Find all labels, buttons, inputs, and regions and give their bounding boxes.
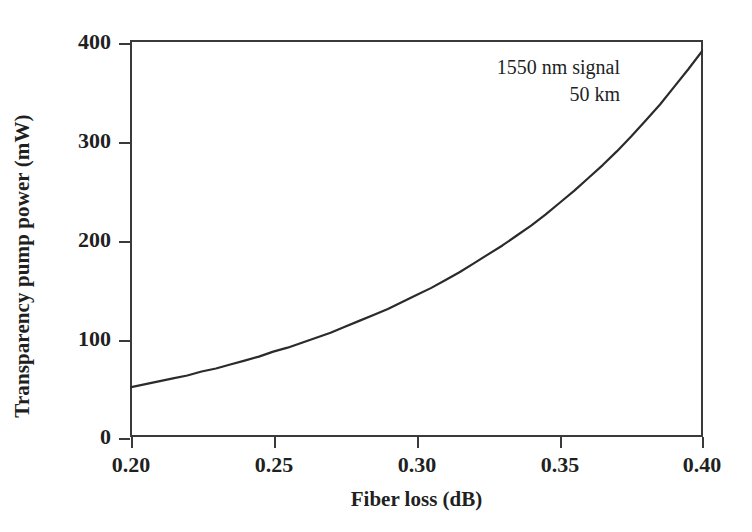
x-tick-label-0-40: 0.40 bbox=[652, 452, 752, 478]
x-tick-mark-0-20 bbox=[131, 437, 133, 448]
y-tick-mark-0 bbox=[119, 438, 130, 440]
x-tick-label-0-35: 0.35 bbox=[510, 452, 610, 478]
y-axis-title: Transparency pump power (mW) bbox=[0, 0, 44, 532]
y-tick-label-100: 100 bbox=[39, 326, 111, 352]
annotation-line-distance: 50 km bbox=[380, 81, 620, 108]
x-tick-mark-0-30 bbox=[417, 437, 419, 448]
y-tick-label-400: 400 bbox=[39, 29, 111, 55]
x-tick-mark-0-25 bbox=[274, 437, 276, 448]
x-tick-label-0-20: 0.20 bbox=[81, 452, 181, 478]
x-axis-title: Fiber loss (dB) bbox=[130, 487, 703, 512]
annotation-line-signal: 1550 nm signal bbox=[380, 54, 620, 81]
x-tick-mark-0-35 bbox=[560, 437, 562, 448]
y-tick-mark-300 bbox=[119, 142, 130, 144]
chart-figure: Transparency pump power (mW) 400 300 200… bbox=[0, 0, 752, 532]
plot-annotation: 1550 nm signal 50 km bbox=[380, 54, 620, 108]
y-tick-label-0: 0 bbox=[39, 424, 111, 450]
y-tick-mark-400 bbox=[119, 43, 130, 45]
y-tick-label-200: 200 bbox=[39, 227, 111, 253]
x-tick-label-0-25: 0.25 bbox=[224, 452, 324, 478]
y-tick-mark-200 bbox=[119, 241, 130, 243]
y-tick-mark-100 bbox=[119, 340, 130, 342]
y-tick-label-300: 300 bbox=[39, 128, 111, 154]
x-tick-label-0-30: 0.30 bbox=[367, 452, 467, 478]
x-tick-mark-0-40 bbox=[702, 437, 704, 448]
